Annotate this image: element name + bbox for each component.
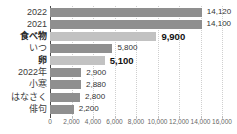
category-label: 2022 (0, 8, 50, 17)
bar-row: 202114,100 (0, 18, 237, 30)
x-tick-label: 8,000 (128, 119, 144, 126)
value-label: 2,800 (85, 93, 105, 101)
bar-row: いつ5,800 (0, 42, 237, 54)
category-label: 小寒 (0, 80, 50, 89)
x-tick-label: 12,000 (169, 119, 189, 126)
bar (50, 32, 156, 41)
bar-row: 食べ物9,900 (0, 30, 237, 42)
bar-row: 2022年2,900 (0, 67, 237, 79)
value-label: 2,200 (79, 105, 99, 113)
horizontal-bar-chart: 202214,120202114,100食べ物9,900いつ5,800卵5,10… (0, 0, 237, 134)
bar (50, 44, 112, 53)
value-label: 9,900 (161, 32, 185, 42)
category-label: 卵 (0, 56, 50, 65)
category-label: いつ (0, 44, 50, 53)
bar-row: 俳句2,200 (0, 103, 237, 115)
value-label: 5,100 (110, 56, 134, 66)
category-label: 2021 (0, 20, 50, 29)
x-tick-label: 0 (48, 119, 52, 126)
value-label: 14,120 (207, 8, 231, 16)
category-label: 俳句 (0, 105, 50, 114)
bar-rows: 202214,120202114,100食べ物9,900いつ5,800卵5,10… (0, 6, 237, 115)
category-label: 食べ物 (0, 32, 50, 41)
category-label: 2022年 (0, 68, 50, 77)
bar (50, 8, 202, 17)
x-tick-label: 2,000 (63, 119, 79, 126)
bar (50, 80, 81, 89)
bar (50, 68, 81, 77)
bar-row: はなさく2,800 (0, 91, 237, 103)
bar (50, 56, 105, 65)
bar-row: 小寒2,880 (0, 79, 237, 91)
x-tick-label: 6,000 (106, 119, 122, 126)
bar (50, 20, 202, 29)
value-label: 5,800 (117, 44, 137, 52)
x-tick-label: 4,000 (85, 119, 101, 126)
category-label: はなさく (0, 93, 50, 102)
bar (50, 105, 74, 114)
bar (50, 93, 80, 102)
x-tick-label: 16,000 (212, 119, 232, 126)
value-label: 2,900 (86, 69, 106, 77)
bar-row: 卵5,100 (0, 55, 237, 67)
value-label: 14,100 (207, 20, 231, 28)
x-tick-label: 14,000 (191, 119, 211, 126)
bar-row: 202214,120 (0, 6, 237, 18)
x-tick-label: 10,000 (148, 119, 168, 126)
value-label: 2,880 (86, 81, 106, 89)
